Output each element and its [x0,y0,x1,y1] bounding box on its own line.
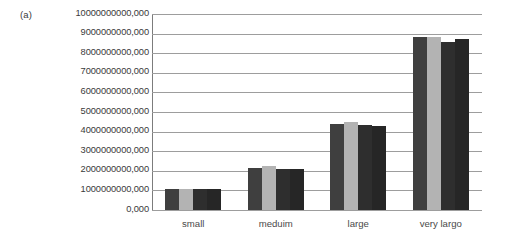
bar [330,124,344,210]
y-tick-label: 9000000000,000 [9,27,149,37]
bar [372,126,386,210]
y-tick-label: 10000000000,000 [9,8,149,18]
y-axis-tick-labels: 10000000000,0009000000000,0008000000000,… [4,0,149,250]
gridline [152,210,482,211]
x-tick-label: very largo [391,218,491,229]
bar [290,169,304,210]
bar [413,37,427,210]
bar [276,169,290,210]
bar [455,39,469,210]
bar-group [413,14,469,210]
y-tick-label: 1000000000,000 [9,184,149,194]
bar [193,189,207,210]
bar-group [165,14,221,210]
y-tick-label: 8000000000,000 [9,47,149,57]
bar [344,122,358,210]
bar [441,42,455,210]
bar [179,189,193,210]
bar [262,166,276,210]
y-tick-label: 3000000000,000 [9,145,149,155]
plot-area [152,14,482,210]
bar-chart-figure: (a) 10000000000,0009000000000,0008000000… [0,0,505,250]
bar-group [330,14,386,210]
bar [165,189,179,210]
bar-group [248,14,304,210]
y-tick-label: 2000000000,000 [9,164,149,174]
y-tick-label: 7000000000,000 [9,66,149,76]
y-tick-label: 6000000000,000 [9,86,149,96]
y-tick-label: 0,000 [9,204,149,214]
bar [427,37,441,210]
y-tick-label: 4000000000,000 [9,125,149,135]
bar [358,125,372,210]
bar [248,168,262,210]
bar [207,189,221,210]
y-tick-label: 5000000000,000 [9,106,149,116]
